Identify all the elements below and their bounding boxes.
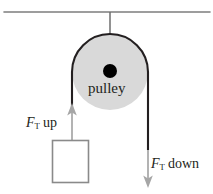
tension-up-arrow <box>67 103 77 140</box>
tension-up-direction: up <box>43 115 57 130</box>
pulley-diagram: pulley FTup FTdown <box>0 0 213 194</box>
tension-up-label: FTup <box>26 116 57 131</box>
pulley-label: pulley <box>88 81 126 96</box>
tension-down-label: FTdown <box>151 157 199 172</box>
tension-down-symbol: F <box>151 156 160 171</box>
tension-down-subscript: T <box>160 162 165 172</box>
tension-up-subscript: T <box>35 121 40 131</box>
tension-up-symbol: F <box>26 115 35 130</box>
pulley-axle-hub <box>103 64 117 78</box>
tension-down-direction: down <box>168 156 199 171</box>
hanging-box <box>53 141 89 183</box>
